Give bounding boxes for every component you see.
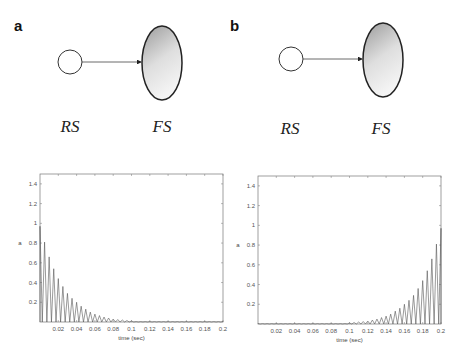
y-tick-label: 0.6 (29, 260, 38, 266)
y-tick-label: 0.6 (247, 262, 256, 268)
x-tick-label: 0.2 (437, 328, 446, 334)
x-tick-label: 0.02 (270, 328, 282, 334)
x-tick-label: 0.12 (362, 328, 374, 334)
y-tick-label: 1.2 (247, 203, 256, 209)
x-tick-label: 0.18 (199, 326, 211, 332)
y-tick-label: 1 (34, 220, 38, 226)
x-tick-label: 0.16 (399, 328, 411, 334)
x-tick-label: 0.06 (307, 328, 319, 334)
y-axis-label: a (18, 240, 22, 246)
chart-a: 0.20.40.60.811.21.40.020.040.060.080.10.… (18, 174, 228, 341)
charts: 0.20.40.60.811.21.40.020.040.060.080.10.… (0, 0, 462, 357)
x-tick-label: 0.12 (144, 326, 156, 332)
y-tick-label: 0.4 (29, 280, 38, 286)
signal-line (258, 228, 441, 324)
y-tick-label: 1 (252, 222, 256, 228)
y-tick-label: 1.2 (29, 201, 38, 207)
y-axis-label: a (236, 242, 240, 248)
x-tick-label: 0.04 (71, 326, 83, 332)
x-tick-label: 0.06 (89, 326, 101, 332)
plot-frame (258, 176, 441, 324)
y-tick-label: 0.4 (247, 282, 256, 288)
x-tick-label: 0.2 (219, 326, 228, 332)
x-tick-label: 0.16 (181, 326, 193, 332)
y-tick-label: 0.8 (247, 242, 256, 248)
x-axis-label: time (sec) (336, 337, 362, 343)
y-tick-label: 0.2 (29, 299, 38, 305)
x-tick-label: 0.08 (325, 328, 337, 334)
y-tick-label: 1.4 (247, 183, 256, 189)
x-tick-label: 0.1 (127, 326, 136, 332)
x-tick-label: 0.1 (345, 328, 354, 334)
plot-frame (40, 174, 223, 322)
y-tick-label: 0.2 (247, 301, 256, 307)
y-tick-label: 1.4 (29, 181, 38, 187)
x-axis-label: time (sec) (118, 335, 144, 341)
x-tick-label: 0.18 (417, 328, 429, 334)
chart-b: 0.20.40.60.811.21.40.020.040.060.080.10.… (236, 176, 446, 343)
signal-line (40, 226, 223, 322)
x-tick-label: 0.14 (380, 328, 392, 334)
x-tick-label: 0.04 (289, 328, 301, 334)
y-tick-label: 0.8 (29, 240, 38, 246)
x-tick-label: 0.14 (162, 326, 174, 332)
x-tick-label: 0.02 (52, 326, 64, 332)
x-tick-label: 0.08 (107, 326, 119, 332)
